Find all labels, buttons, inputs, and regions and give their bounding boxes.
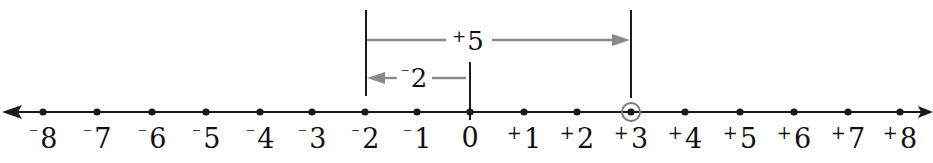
plus-five-label: +5 [448, 26, 488, 56]
tick-dot [896, 108, 903, 115]
tick-sign: + [883, 122, 898, 143]
tick-dot [256, 108, 263, 115]
tick-number: 8 [40, 123, 57, 154]
tick-sign: ⁻ [403, 122, 413, 143]
tick-sign: ⁻ [29, 122, 39, 143]
minus-two-arrowhead-icon [367, 72, 385, 84]
minus-two-label: ⁻2 [397, 63, 432, 93]
tick-number: 0 [461, 122, 478, 153]
tick-number: 4 [685, 123, 702, 154]
tick-sign: ⁻ [192, 122, 202, 143]
tick-label: +2 [560, 122, 594, 154]
number-line-diagram: +5 ⁻2 ⁻8⁻7⁻6⁻5⁻4⁻3⁻2⁻10+1+2+3+4+5+6+7+8 [0, 0, 933, 163]
tick-label: +5 [723, 122, 757, 154]
tick-label: 0 [461, 122, 478, 153]
tick-dot [39, 108, 46, 115]
minus-two-number: 2 [411, 63, 428, 93]
tick-sign: ⁻ [351, 122, 361, 143]
tick-dot [573, 108, 580, 115]
tick-number: 4 [257, 123, 274, 154]
plus-five-sign: + [452, 26, 466, 46]
tick-number: 1 [414, 123, 431, 154]
tick-number: 5 [740, 123, 757, 154]
tick-label: +3 [614, 122, 648, 154]
tick-sign: ⁻ [83, 122, 93, 143]
tick-number: 2 [362, 123, 379, 154]
tick-dot [413, 108, 420, 115]
tick-number: 1 [524, 123, 541, 154]
tick-sign: + [560, 122, 575, 143]
tick-label: +7 [831, 122, 865, 154]
plus-five-arrowhead-icon [612, 34, 630, 46]
tick-number: 5 [203, 123, 220, 154]
tick-dot [736, 108, 743, 115]
tick-label: +6 [777, 122, 811, 154]
tick-dot [790, 108, 797, 115]
tick-sign: + [507, 122, 522, 143]
tick-number: 3 [631, 123, 648, 154]
tick-sign: + [614, 122, 629, 143]
tick-number: 7 [848, 123, 865, 154]
tick-dot [202, 108, 209, 115]
minus-two-sign: ⁻ [401, 63, 410, 83]
tick-label: +4 [668, 122, 702, 154]
tick-dot [681, 108, 688, 115]
tick-sign: + [777, 122, 792, 143]
plus-five-number: 5 [467, 26, 484, 56]
tick-sign: + [831, 122, 846, 143]
tick-label: ⁻6 [138, 122, 167, 154]
tick-number: 8 [900, 123, 917, 154]
tick-label: ⁻4 [246, 122, 275, 154]
tick-label: ⁻3 [298, 122, 327, 154]
tick-sign: + [668, 122, 683, 143]
tick-dot [361, 108, 368, 115]
tick-number: 2 [577, 123, 594, 154]
tick-sign: ⁻ [298, 122, 308, 143]
tick-label: +1 [507, 122, 541, 154]
tick-dot [93, 108, 100, 115]
tick-sign: + [723, 122, 738, 143]
tick-number: 3 [309, 123, 326, 154]
tick-sign: ⁻ [246, 122, 256, 143]
tick-label: +8 [883, 122, 917, 154]
tick-label: ⁻2 [351, 122, 380, 154]
tick-label: ⁻7 [83, 122, 112, 154]
tick-dot [627, 108, 634, 115]
tick-label: ⁻5 [192, 122, 221, 154]
tick-number: 6 [149, 123, 166, 154]
tick-dot [308, 108, 315, 115]
tick-dot [520, 108, 527, 115]
tick-number: 6 [794, 123, 811, 154]
tick-label: ⁻8 [29, 122, 58, 154]
tick-dot [148, 108, 155, 115]
tick-label: ⁻1 [403, 122, 432, 154]
tick-number: 7 [94, 123, 111, 154]
tick-dot [844, 108, 851, 115]
tick-sign: ⁻ [138, 122, 148, 143]
